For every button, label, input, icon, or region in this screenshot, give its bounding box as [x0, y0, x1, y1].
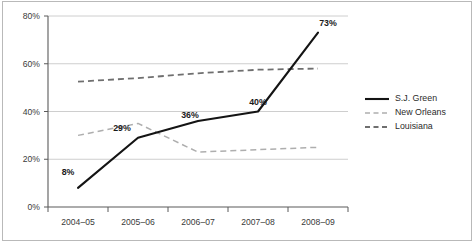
- legend-label-louisiana: Louisiana: [395, 121, 433, 131]
- x-tick-label-2007-08: 2007–08: [241, 217, 275, 227]
- y-axis-tick-labels: 80% 60% 40% 20% 0%: [23, 11, 41, 212]
- x-tick-label-2008-09: 2008–09: [301, 217, 335, 227]
- data-label-8: 8%: [62, 167, 75, 177]
- y-axis-ticks: [44, 16, 48, 207]
- y-tick-label-20: 20%: [23, 154, 41, 164]
- legend-label-new-orleans: New Orleans: [395, 107, 446, 117]
- series-data-labels: 8% 29% 36% 40% 73%: [62, 18, 337, 177]
- chart-legend: S.J. Green New Orleans Louisiana: [365, 93, 446, 131]
- y-tick-label-40: 40%: [23, 107, 41, 117]
- data-label-40: 40%: [249, 97, 267, 107]
- data-label-36: 36%: [181, 110, 199, 120]
- line-chart-figure: 80% 60% 40% 20% 0% 2004–05 2005–06 2006–…: [0, 0, 475, 244]
- legend-item-sj-green[interactable]: S.J. Green: [365, 93, 437, 103]
- x-axis-ticks: [48, 207, 348, 212]
- x-tick-label-2005-06: 2005–06: [121, 217, 155, 227]
- x-tick-label-2006-07: 2006–07: [181, 217, 215, 227]
- y-tick-label-0: 0%: [28, 202, 41, 212]
- x-axis-tick-labels: 2004–05 2005–06 2006–07 2007–08 2008–09: [61, 217, 335, 227]
- chart-plot-area: 80% 60% 40% 20% 0% 2004–05 2005–06 2006–…: [0, 0, 475, 244]
- y-tick-label-80: 80%: [23, 11, 41, 21]
- legend-item-new-orleans[interactable]: New Orleans: [365, 107, 446, 117]
- legend-label-sj-green: S.J. Green: [395, 93, 437, 103]
- legend-item-louisiana[interactable]: Louisiana: [365, 121, 433, 131]
- data-label-73: 73%: [319, 18, 337, 28]
- y-tick-label-60: 60%: [23, 59, 41, 69]
- gridlines: [48, 16, 348, 159]
- data-label-29: 29%: [113, 123, 131, 133]
- x-tick-label-2004-05: 2004–05: [61, 217, 95, 227]
